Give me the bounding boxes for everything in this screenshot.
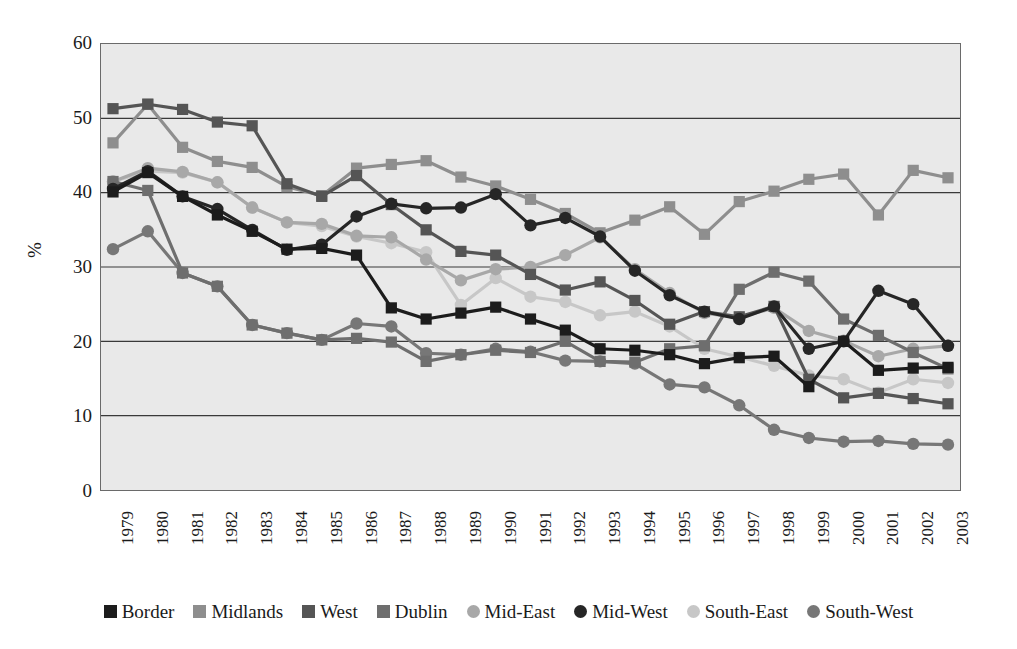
legend-circle-icon <box>467 605 480 618</box>
data-point <box>385 231 397 243</box>
y-tick-label: 10 <box>48 406 92 425</box>
legend-circle-icon <box>687 605 700 618</box>
data-point <box>872 285 884 297</box>
data-point <box>629 295 640 306</box>
legend-item-label: South-West <box>825 602 913 621</box>
data-point <box>455 349 466 360</box>
data-point <box>247 120 258 131</box>
data-point <box>142 167 153 178</box>
legend-item-south-east[interactable]: South-East <box>687 602 788 621</box>
data-point <box>351 170 362 181</box>
data-point <box>211 176 223 188</box>
data-point <box>142 185 153 196</box>
series-south-west <box>107 225 954 451</box>
data-point <box>803 343 815 355</box>
x-tick-label: 1992 <box>571 511 588 545</box>
data-point <box>942 362 953 373</box>
y-tick-label: 0 <box>48 481 92 500</box>
caption-remnant <box>0 0 1017 2</box>
data-point <box>247 319 258 330</box>
data-point <box>629 305 641 317</box>
x-tick-label: 1981 <box>189 511 206 545</box>
legend-item-mid-east[interactable]: Mid-East <box>467 602 556 621</box>
data-point <box>942 438 954 450</box>
data-point <box>281 216 293 228</box>
data-point <box>873 388 884 399</box>
data-point <box>733 399 745 411</box>
data-point <box>316 334 327 345</box>
data-point <box>838 313 849 324</box>
legend-item-mid-west[interactable]: Mid-West <box>574 602 668 621</box>
data-point <box>420 253 432 265</box>
data-point <box>908 393 919 404</box>
data-point <box>803 381 814 392</box>
data-point <box>385 198 397 210</box>
legend-item-label: Mid-West <box>592 602 668 621</box>
data-point <box>421 155 432 166</box>
data-point <box>559 249 571 261</box>
data-point <box>698 305 710 317</box>
x-tick-label: 2001 <box>884 511 901 545</box>
data-point <box>733 313 745 325</box>
data-point <box>455 171 466 182</box>
x-tick-label: 1994 <box>641 511 658 545</box>
data-point <box>490 345 501 356</box>
data-point <box>455 246 466 257</box>
data-point <box>838 168 849 179</box>
data-point <box>421 313 432 324</box>
legend-item-south-west[interactable]: South-West <box>807 602 913 621</box>
data-point <box>560 336 571 347</box>
data-point <box>316 243 327 254</box>
x-tick-label: 1989 <box>467 511 484 545</box>
x-tick-label: 1986 <box>363 511 380 545</box>
x-tick-label: 1982 <box>223 511 240 545</box>
legend-circle-icon <box>574 605 587 618</box>
data-point <box>247 226 258 237</box>
data-point <box>838 336 849 347</box>
x-tick-label: 1990 <box>502 511 519 545</box>
data-point <box>455 307 466 318</box>
data-point <box>351 250 362 261</box>
data-point <box>386 336 397 347</box>
x-tick-label: 1991 <box>537 511 554 545</box>
data-point <box>490 250 501 261</box>
data-point <box>281 178 292 189</box>
data-point <box>177 267 188 278</box>
data-point <box>525 313 536 324</box>
data-point <box>176 166 188 178</box>
legend-item-west[interactable]: West <box>302 602 358 621</box>
legend-square-icon <box>104 605 117 618</box>
x-tick-label: 1996 <box>710 511 727 545</box>
data-point <box>629 357 640 368</box>
legend-square-icon <box>193 605 206 618</box>
x-tick-label: 2002 <box>919 511 936 545</box>
legend-item-midlands[interactable]: Midlands <box>193 602 283 621</box>
data-point <box>908 347 919 358</box>
data-point <box>177 104 188 115</box>
legend-square-icon <box>377 605 390 618</box>
data-point <box>316 218 328 230</box>
data-point <box>212 281 223 292</box>
data-point <box>386 302 397 313</box>
legend-circle-icon <box>807 605 820 618</box>
data-point <box>386 159 397 170</box>
data-point <box>316 191 327 202</box>
data-point <box>768 424 780 436</box>
data-point <box>560 325 571 336</box>
y-tick-label: 60 <box>48 33 92 52</box>
data-point <box>559 296 571 308</box>
data-point <box>629 345 640 356</box>
data-point <box>873 365 884 376</box>
data-point <box>664 319 675 330</box>
data-point <box>803 276 814 287</box>
data-point <box>942 172 953 183</box>
data-point <box>803 174 814 185</box>
data-point <box>734 352 745 363</box>
legend-item-dublin[interactable]: Dublin <box>377 602 448 621</box>
data-point <box>908 165 919 176</box>
data-point <box>698 381 710 393</box>
data-point <box>107 103 118 114</box>
data-point <box>455 201 467 213</box>
y-tick-label: 40 <box>48 182 92 201</box>
legend-item-border[interactable]: Border <box>104 602 175 621</box>
